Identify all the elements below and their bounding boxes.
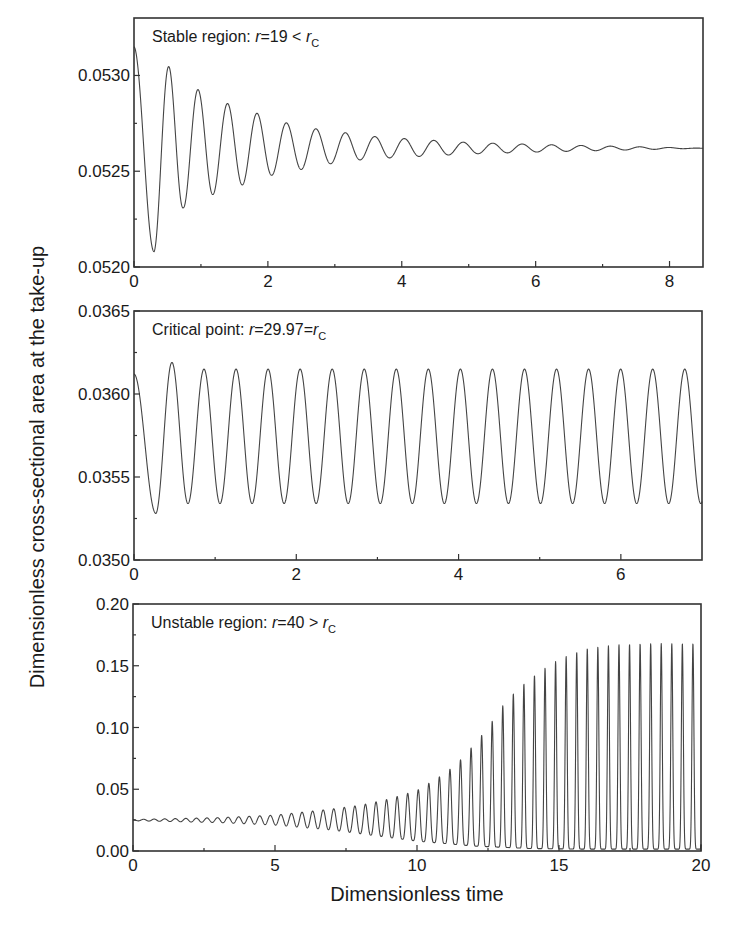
data-trace [134,362,702,513]
x-tick-label: 4 [454,565,463,584]
x-tick-label: 5 [270,856,279,875]
y-axis-title: Dimensionless cross-sectional area at th… [26,246,48,688]
x-tick-label: 0 [129,565,138,584]
x-tick-label: 4 [397,272,406,291]
x-tick-label: 15 [550,856,569,875]
panel-unstable: 051015200.000.050.100.150.20Unstable reg… [96,595,711,875]
panel-annotation: Unstable region: r=40 > rC [151,614,336,635]
y-tick-label: 0.20 [96,595,129,614]
x-tick-label: 0 [128,856,137,875]
y-tick-label: 0.0530 [78,66,130,85]
plot-frame [133,604,701,851]
plot-frame [134,311,702,560]
panel-annotation: Stable region: r=19 < rC [152,28,319,49]
x-tick-label: 0 [129,272,138,291]
x-tick-label: 20 [692,856,711,875]
x-tick-label: 8 [665,272,674,291]
panel-annotation: Critical point: r=29.97=rC [152,321,326,342]
data-trace [134,47,703,252]
y-tick-label: 0.05 [96,780,129,799]
y-tick-label: 0.0360 [78,385,130,404]
y-tick-label: 0.0520 [78,258,130,277]
panel-critical: 02460.03500.03550.03600.0365Critical poi… [78,302,702,584]
x-axis-title: Dimensionless time [330,883,503,905]
figure: 024680.05200.05250.0530Stable region: r=… [0,0,734,935]
y-tick-label: 0.0365 [78,302,130,321]
plot-frame [134,18,703,267]
y-tick-label: 0.0525 [78,162,130,181]
y-tick-label: 0.10 [96,719,129,738]
panel-stable: 024680.05200.05250.0530Stable region: r=… [78,18,703,291]
x-tick-label: 6 [531,272,540,291]
y-tick-label: 0.00 [96,842,129,861]
x-tick-label: 10 [408,856,427,875]
x-tick-label: 6 [616,565,625,584]
x-tick-label: 2 [263,272,272,291]
data-trace [133,644,701,850]
y-tick-label: 0.15 [96,657,129,676]
y-tick-label: 0.0355 [78,468,130,487]
y-tick-label: 0.0350 [78,551,130,570]
x-tick-label: 2 [292,565,301,584]
